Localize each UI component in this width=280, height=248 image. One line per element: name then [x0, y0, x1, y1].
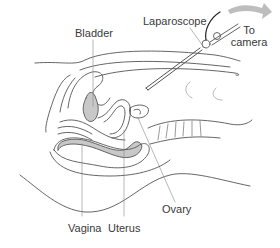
to-camera-arrow-icon [228, 3, 272, 19]
label-ovary: Ovary [162, 203, 191, 215]
pelvic-layer-1 [60, 120, 125, 140]
laparoscope-pointer [190, 28, 203, 46]
label-bladder: Bladder [75, 27, 113, 39]
laparoscope-valve [202, 40, 210, 48]
label-to-camera-line2: camera [225, 36, 273, 48]
laparoscope-tip [146, 88, 148, 90]
label-laparoscope: Laparoscope [143, 15, 207, 27]
posterior-curve [50, 152, 170, 176]
buttock-curve [20, 174, 250, 212]
rectum-fill [58, 139, 142, 157]
skin-left-2 [60, 78, 75, 112]
label-uterus: Uterus [108, 222, 140, 234]
ovary-inner [134, 109, 141, 114]
laparoscope-shaft [146, 48, 200, 88]
skin-left [46, 75, 70, 132]
bowel-loop-1 [186, 82, 192, 98]
label-to-camera-line1: To [225, 24, 273, 36]
ovary [129, 105, 148, 118]
bladder-inner [83, 92, 98, 121]
uterus-inner [104, 106, 125, 134]
label-to-camera: To camera [225, 24, 273, 48]
bowel-loop-2 [213, 88, 222, 100]
label-vagina: Vagina [68, 222, 101, 234]
laparoscope-shaft-2 [148, 50, 202, 90]
sacrum-lower [150, 137, 220, 144]
